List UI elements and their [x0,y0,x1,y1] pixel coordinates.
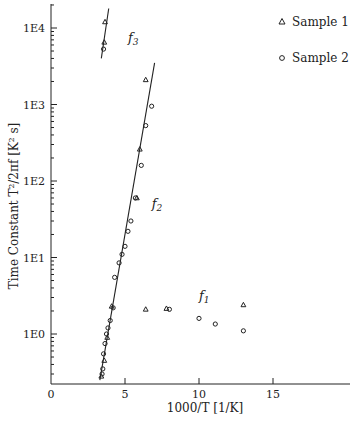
fit-lines [100,8,155,380]
circle-marker [213,322,217,326]
triangle-marker [143,307,148,311]
x-axis-label: 1000/T [1/K] [167,401,243,415]
legend-triangle-icon [279,19,285,25]
legend-circle-icon [280,56,285,61]
y-axis-label: Time Constant T²/2πf [K² s] [7,123,21,290]
circle-marker [139,163,143,167]
circle-marker [113,275,117,279]
circle-marker [241,329,245,333]
x-tick-label: 5 [122,388,129,401]
circle-marker [129,219,133,223]
y-tick-label: 1E4 [23,22,45,35]
annotation-f1: f1 [198,288,210,305]
annotations: f3f2f1 [127,30,210,304]
legend-label: Sample 2 [292,51,349,65]
y-tick-label: 1E3 [23,99,45,112]
y-tick-label: 1E2 [23,175,45,188]
triangle-marker [102,358,107,362]
legend-label: Sample 1 [292,15,349,29]
x-tick-label: 15 [266,388,280,401]
circle-marker [150,104,154,108]
circle-marker [126,229,130,233]
y-tick-label: 1E1 [23,252,45,265]
circle-marker [101,47,105,51]
chart-canvas: 0510151E01E11E21E31E4 f3f2f1 Sample 1Sam… [0,0,352,422]
annotation-f3: f3 [127,30,139,47]
circle-marker [101,352,105,356]
x-tick-label: 0 [48,388,55,401]
circle-marker [197,316,201,320]
annotation-f2: f2 [151,196,163,213]
circle-marker [123,244,127,248]
triangle-marker [143,77,148,81]
x-tick-label: 10 [192,388,206,401]
legend: Sample 1Sample 2 [279,15,349,65]
data-points [99,19,246,378]
circle-marker [106,326,110,330]
y-tick-label: 1E0 [23,328,45,341]
triangle-marker [241,302,246,306]
